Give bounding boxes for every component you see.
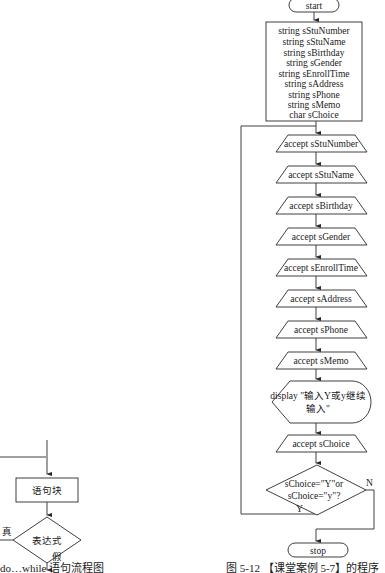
decision-label-line2: sChoice="y"? — [288, 491, 341, 501]
statement-block-label: 语句块 — [32, 485, 62, 496]
display-label-line1: display "输入Y或y继续 — [270, 390, 365, 401]
yes-label: Y — [296, 504, 303, 514]
declaration-line: string sMemo — [288, 100, 341, 110]
input-label: accept sGender — [292, 232, 351, 242]
declaration-line: string sStuNumber — [278, 26, 350, 36]
input-label: accept sStuNumber — [284, 139, 359, 149]
declaration-line: string sEnrollTime — [278, 69, 349, 79]
condition-label: 表达式 — [32, 535, 62, 546]
loop-back-line — [241, 126, 318, 514]
choice-input-label: accept sChoice — [292, 439, 349, 449]
start-label: start — [306, 1, 323, 11]
declaration-line: char sChoice — [289, 110, 338, 120]
display-shape — [272, 381, 371, 423]
false-label: 假 — [52, 551, 62, 562]
right-caption: 图 5-12 【课堂案例 5-7】的程序 — [226, 561, 379, 573]
input-label: accept sStuName — [288, 170, 354, 180]
display-label-line2: 输入" — [306, 403, 330, 414]
no-label: N — [366, 478, 373, 488]
input-label: accept sBirthday — [289, 201, 353, 211]
input-label: accept sAddress — [290, 294, 352, 304]
decision-diamond — [266, 465, 366, 515]
program-flowchart: start string sStuNumber string sStuName … — [241, 0, 374, 557]
input-label: accept sEnrollTime — [284, 263, 358, 273]
declaration-line: string sBirthday — [284, 48, 345, 58]
declaration-line: string sPhone — [288, 90, 339, 100]
left-caption: do…while 语句流程图 — [0, 561, 104, 573]
flowchart-canvas: 语句块 表达式 真 假 do…while 语句流程图 start string … — [0, 0, 385, 573]
do-while-flowchart: 语句块 表达式 真 假 — [0, 440, 81, 570]
input-label: accept sPhone — [294, 325, 348, 335]
input-label: accept sMemo — [293, 356, 348, 366]
true-label: 真 — [2, 526, 12, 537]
declaration-line: string sStuName — [282, 37, 345, 47]
decision-label-line1: sChoice="Y"or — [285, 479, 344, 489]
stop-label: stop — [310, 546, 326, 556]
declaration-line: string sAddress — [285, 79, 344, 89]
declaration-line: string sGender — [286, 58, 343, 68]
